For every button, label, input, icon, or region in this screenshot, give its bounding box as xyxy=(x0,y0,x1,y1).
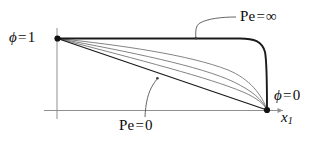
phi-zero-value: 0 xyxy=(293,87,301,103)
phi-one-equals: = xyxy=(17,29,28,45)
endpoint-dot-left xyxy=(54,35,60,41)
phi-one-value: 1 xyxy=(28,29,36,45)
peclet-concentration-figure: ϕ=1 ϕ=0 x1 Pe=∞ Pe=0 xyxy=(0,0,319,142)
pe-infinity-equals: = xyxy=(255,8,266,24)
phi-one-symbol: ϕ xyxy=(9,29,17,45)
phi-zero-symbol: ϕ xyxy=(274,87,282,103)
pe-zero-value: 0 xyxy=(145,117,153,133)
pe-zero-symbol: Pe xyxy=(119,117,134,133)
pe-infinity-value: ∞ xyxy=(266,8,277,24)
leader-pe-infinity-line xyxy=(196,17,236,38)
axes-group xyxy=(44,28,283,119)
label-peclet-zero: Pe=0 xyxy=(119,118,153,133)
label-peclet-infinity: Pe=∞ xyxy=(240,9,277,24)
curve-pe-zero xyxy=(58,39,268,111)
x-axis-subscript: 1 xyxy=(288,115,293,126)
leader-pe-zero-anchor xyxy=(156,77,159,80)
leader-pe-infinity-anchor xyxy=(195,37,198,40)
pe-zero-equals: = xyxy=(134,117,145,133)
endpoint-dot-right xyxy=(264,107,270,113)
label-phi-equals-one: ϕ=1 xyxy=(9,30,35,45)
pe-infinity-symbol: Pe xyxy=(240,8,255,24)
leader-pe-zero-line xyxy=(145,79,157,117)
label-phi-equals-zero: ϕ=0 xyxy=(274,88,300,103)
x-axis-symbol: x xyxy=(281,109,288,125)
label-x-axis: x1 xyxy=(281,110,293,126)
phi-zero-equals: = xyxy=(282,87,293,103)
leader-pe-infinity xyxy=(195,17,237,40)
